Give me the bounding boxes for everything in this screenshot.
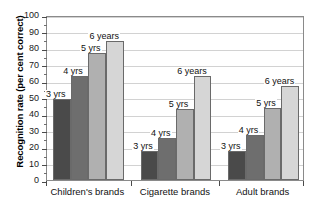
bar-label: 3 yrs <box>220 142 242 151</box>
y-axis-tick <box>42 33 47 34</box>
y-axis-tick <box>42 149 47 150</box>
y-axis-tick-label: 20 <box>13 143 39 152</box>
y-axis-minor-tick <box>44 25 47 26</box>
bar-label: 5 yrs <box>168 100 190 109</box>
y-axis-minor-tick <box>44 107 47 108</box>
bar-label: 6 years <box>176 67 208 76</box>
y-axis-minor-tick <box>44 74 47 75</box>
y-axis-tick-label: 80 <box>13 44 39 53</box>
bar <box>88 53 106 180</box>
y-axis-tick <box>42 17 47 18</box>
y-axis-tick-label: 10 <box>13 160 39 169</box>
x-axis-tick <box>219 181 220 186</box>
bar <box>158 138 176 180</box>
y-axis-minor-tick <box>44 157 47 158</box>
bar <box>228 151 246 180</box>
plot-area: 3 yrs4 yrs5 yrs6 years3 yrs4 yrs5 yrs6 y… <box>46 16 304 181</box>
bar-label: 4 yrs <box>238 126 260 135</box>
y-axis-tick <box>42 50 47 51</box>
y-axis-tick-label: 90 <box>13 28 39 37</box>
bar-label: 5 yrs <box>255 99 277 108</box>
y-axis-tick <box>42 116 47 117</box>
y-axis-minor-tick <box>44 41 47 42</box>
x-axis-end-tick <box>46 181 47 186</box>
x-axis-category-label: Cigarette brands <box>126 187 225 197</box>
bar <box>53 99 71 180</box>
x-axis-category-label: Children's brands <box>38 187 137 197</box>
bar <box>281 86 299 180</box>
x-axis-tick <box>131 181 132 186</box>
x-axis-category-label: Adult brands <box>213 187 312 197</box>
bar-label: 4 yrs <box>62 67 84 76</box>
y-axis-tick-label: 40 <box>13 110 39 119</box>
y-axis-tick <box>42 99 47 100</box>
y-axis-tick-label: 50 <box>13 94 39 103</box>
x-axis: Children's brandsCigarette brandsAdult b… <box>46 181 304 205</box>
gridline <box>47 17 303 18</box>
y-axis-tick <box>42 165 47 166</box>
bar-label: 4 yrs <box>150 129 172 138</box>
bar-chart-figure: Recognition rate (per cent correct) 3 yr… <box>0 0 313 205</box>
x-axis-end-tick <box>303 181 304 186</box>
y-axis-tick-label: 70 <box>13 61 39 70</box>
bar <box>176 109 194 180</box>
y-axis-minor-tick <box>44 140 47 141</box>
bar <box>141 151 159 180</box>
bar-label: 6 years <box>264 77 296 86</box>
bar-label: 3 yrs <box>132 142 154 151</box>
bar-label: 3 yrs <box>45 90 67 99</box>
bar-label: 5 yrs <box>80 44 102 53</box>
bar <box>246 135 264 180</box>
bar <box>264 108 282 180</box>
bar <box>71 76 89 180</box>
bar <box>106 41 124 180</box>
y-axis-tick <box>42 132 47 133</box>
y-axis-minor-tick <box>44 124 47 125</box>
y-axis-tick-label: 0 <box>13 176 39 185</box>
y-axis-tick-label: 100 <box>13 11 39 20</box>
y-axis-tick-label: 60 <box>13 77 39 86</box>
y-axis-minor-tick <box>44 173 47 174</box>
y-axis-tick <box>42 66 47 67</box>
gridline <box>47 66 303 67</box>
bar <box>194 76 212 180</box>
y-axis-tick-label: 30 <box>13 127 39 136</box>
bar-label: 6 years <box>88 32 120 41</box>
gridline <box>47 33 303 34</box>
y-axis-minor-tick <box>44 58 47 59</box>
y-axis-tick <box>42 83 47 84</box>
